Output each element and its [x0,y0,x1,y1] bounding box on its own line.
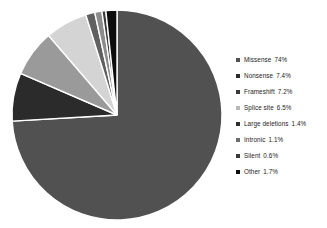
legend-item-silent[interactable]: Silent0.6% [236,148,326,164]
square-marker-icon [236,90,240,94]
legend-item-label: Silent [244,152,260,159]
legend-item-text: Silent0.6% [244,152,278,160]
legend-item-value: 0.6% [263,152,278,159]
legend-item-text: Splice site6.5% [244,104,292,112]
legend-item-nonsense[interactable]: Nonsense7.4% [236,68,326,84]
legend-item-text: Frameshift7.2% [244,88,293,96]
square-marker-icon [236,74,240,78]
legend-item-value: 74% [274,56,287,63]
legend-item-value: 1.1% [268,136,283,143]
legend-item-label: Frameshift [244,88,275,95]
square-marker-icon [236,58,240,62]
legend-item-large-deletions[interactable]: Large deletions1.4% [236,116,326,132]
square-marker-icon [236,170,240,174]
legend-item-text: Other1.7% [244,168,278,176]
pie-svg [8,6,226,224]
pie-chart-figure: Missense74% Nonsense7.4% Frameshift7.2% … [0,0,327,228]
legend-item-text: Missense74% [244,56,287,64]
legend-item-frameshift[interactable]: Frameshift7.2% [236,84,326,100]
square-marker-icon [236,122,240,126]
legend-item-label: Nonsense [244,72,273,79]
legend-item-text: Nonsense7.4% [244,72,291,80]
legend-item-intronic[interactable]: Intronic1.1% [236,132,326,148]
square-marker-icon [236,138,240,142]
legend-item-value: 6.5% [277,104,292,111]
legend-item-label: Intronic [244,136,265,143]
legend-item-value: 1.7% [263,168,278,175]
legend-item-splice-site[interactable]: Splice site6.5% [236,100,326,116]
legend-item-value: 7.4% [276,72,291,79]
legend-item-label: Splice site [244,104,274,111]
legend-item-label: Other [244,168,260,175]
legend-item-other[interactable]: Other1.7% [236,164,326,180]
legend-item-value: 1.4% [292,120,307,127]
legend-item-text: Intronic1.1% [244,136,283,144]
pie-plot-area [8,6,226,224]
square-marker-icon [236,154,240,158]
legend-item-missense[interactable]: Missense74% [236,52,326,68]
legend-item-label: Large deletions [244,120,289,127]
chart-legend: Missense74% Nonsense7.4% Frameshift7.2% … [236,52,326,180]
pie-slice-group [12,10,222,220]
legend-item-value: 7.2% [278,88,293,95]
legend-item-label: Missense [244,56,271,63]
square-marker-icon [236,106,240,110]
legend-item-text: Large deletions1.4% [244,120,306,128]
